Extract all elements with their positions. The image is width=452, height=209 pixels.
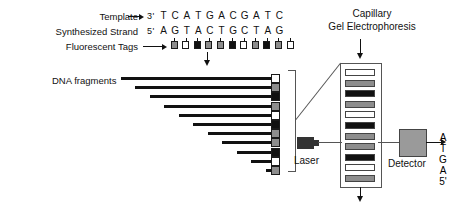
output-base: A — [436, 132, 450, 143]
laser-beam-line — [318, 142, 342, 143]
dna-fragment-bar — [121, 77, 272, 80]
output-sequence: ATGA5' — [436, 132, 450, 187]
template-base: G — [204, 10, 216, 21]
dna-fragment-bar — [179, 114, 272, 117]
output-base: A — [436, 165, 450, 176]
synthesized-base: C — [239, 25, 251, 36]
label-fluorescent-tags: Fluorescent Tags — [30, 41, 138, 52]
template-base: A — [251, 10, 263, 21]
gel-outlet-arrow-icon — [357, 196, 363, 202]
tag-square-white — [287, 41, 294, 49]
dna-fragment-cap-gray — [271, 166, 280, 175]
synthesized-base: A — [193, 25, 205, 36]
tag-square-gray — [217, 41, 224, 49]
gel-band-gray — [345, 80, 375, 87]
tags-arrow-line — [143, 46, 163, 47]
synthesized-base: A — [158, 25, 170, 36]
tag-square-black — [263, 41, 270, 49]
tag-square-black — [229, 41, 236, 49]
dna-fragment-bar — [237, 151, 272, 154]
dna-fragment-cap-gray — [271, 83, 280, 92]
dna-fragment-bar — [150, 95, 272, 98]
tag-square-white — [182, 41, 189, 49]
output-base: 5' — [436, 176, 450, 187]
gel-band-white — [345, 69, 375, 76]
dna-fragment-cap-white — [271, 74, 280, 83]
template-base: G — [239, 10, 251, 21]
dna-fragment-bar — [208, 132, 272, 135]
laser-icon — [297, 137, 314, 149]
template-prime: 3' — [147, 11, 158, 21]
dna-fragment-cap-gray — [271, 129, 280, 138]
gel-band-gray — [345, 175, 375, 182]
dna-fragment-ladder — [100, 70, 290, 170]
tag-incorporation-arrow-icon — [204, 60, 210, 66]
dna-fragment-bar — [164, 105, 271, 108]
gel-band-black — [345, 154, 375, 161]
dna-fragment-bar — [193, 123, 271, 126]
tag-square-black — [194, 41, 201, 49]
capillary-title-line1: Capillary — [353, 8, 392, 19]
fragment-to-gel-leader — [295, 63, 341, 121]
template-base: C — [170, 10, 182, 21]
capillary-title-line2: Gel Electrophoresis — [328, 21, 415, 32]
synthesized-base: G — [170, 25, 182, 36]
tag-square-gray — [171, 41, 178, 49]
template-base: C — [228, 10, 240, 21]
synthesized-sequence: 5'AGTACTGCTAG — [147, 25, 286, 36]
dna-fragment-bar — [135, 86, 271, 89]
template-base: T — [262, 10, 274, 21]
output-base: T — [436, 143, 450, 154]
tag-square-gray — [275, 41, 282, 49]
gel-band-white — [345, 111, 375, 118]
tags-arrow-icon — [162, 44, 167, 50]
detector-icon — [399, 129, 427, 157]
template-sequence: 3'TCATGACGATC — [147, 10, 286, 21]
dna-fragment-cap-black — [271, 148, 280, 157]
dna-fragment-bar — [222, 141, 271, 144]
label-synthesized-strand: Synthesized Strand — [8, 26, 138, 37]
synthesized-base: C — [204, 25, 216, 36]
template-base: C — [274, 10, 286, 21]
tag-square-gray — [205, 41, 212, 49]
label-laser: Laser — [294, 155, 319, 166]
label-detector: Detector — [388, 158, 426, 169]
gel-inlet-arrow-line — [360, 39, 361, 54]
template-base: A — [181, 10, 193, 21]
gel-band-gray — [345, 101, 375, 108]
gel-band-gray — [345, 143, 375, 150]
gel-band-black — [345, 122, 375, 129]
dna-fragment-cap-gray — [271, 102, 280, 111]
gel-band-black — [345, 90, 375, 97]
dna-fragment-cap-black — [271, 92, 280, 101]
synthesized-base: T — [181, 25, 193, 36]
synthesized-base: G — [274, 25, 286, 36]
template-base: A — [216, 10, 228, 21]
synthesized-base: G — [228, 25, 240, 36]
dna-fragment-cap-gray — [271, 138, 280, 147]
synthesized-prime: 5' — [147, 26, 158, 36]
synthesized-base: T — [251, 25, 263, 36]
dna-fragment-bar — [251, 160, 271, 163]
gel-band-white — [345, 164, 375, 171]
template-arrow-icon — [139, 14, 144, 20]
tag-square-gray — [252, 41, 259, 49]
template-base: T — [158, 10, 170, 21]
capillary-gel-column — [340, 63, 382, 188]
dna-fragment-cap-white — [271, 157, 280, 166]
output-base: G — [436, 154, 450, 165]
synthesized-base: T — [216, 25, 228, 36]
label-template: Template — [62, 11, 138, 22]
dna-fragment-cap-white — [271, 111, 280, 120]
detector-beam-line — [378, 142, 400, 143]
gel-band-gray — [345, 133, 375, 140]
tag-square-white — [240, 41, 247, 49]
gel-inlet-arrow-icon — [357, 53, 363, 59]
synthesized-base: A — [262, 25, 274, 36]
dna-fragment-cap-black — [271, 120, 280, 129]
template-base: T — [193, 10, 205, 21]
